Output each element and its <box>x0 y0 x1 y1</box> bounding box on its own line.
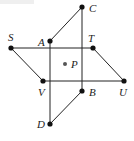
label-D: D <box>36 118 45 130</box>
segments <box>11 7 124 124</box>
point-T <box>90 45 95 50</box>
segment-A-C <box>50 7 82 41</box>
segment-B-D <box>50 91 82 124</box>
label-V: V <box>38 86 46 98</box>
point-V <box>40 78 45 83</box>
point-C <box>79 4 84 9</box>
point-A <box>47 38 52 43</box>
label-C: C <box>89 2 97 14</box>
point-S <box>8 45 13 50</box>
label-U: U <box>119 86 128 98</box>
geometry-diagram: C A S T P V U B D <box>0 0 134 141</box>
point-U <box>121 78 126 83</box>
label-B: B <box>89 86 96 98</box>
point-D <box>47 121 52 126</box>
point-B <box>79 88 84 93</box>
label-T: T <box>88 32 95 44</box>
point-P <box>63 62 67 66</box>
segment-T-U <box>93 48 124 81</box>
segment-V-S <box>11 48 43 81</box>
label-P: P <box>70 58 78 70</box>
label-A: A <box>37 36 45 48</box>
label-S: S <box>8 31 14 43</box>
